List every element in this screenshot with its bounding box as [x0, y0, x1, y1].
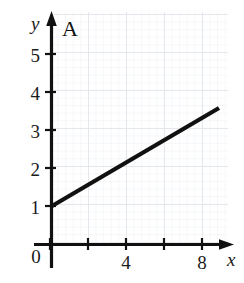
y-tick-label-1: 1	[20, 198, 40, 217]
y-tick-label-4: 4	[20, 84, 40, 103]
x-tick-label-8: 8	[190, 253, 214, 272]
y-tick-label-5: 5	[20, 46, 40, 65]
x-tick-label-4: 4	[114, 253, 138, 272]
x-axis-label: x	[227, 250, 235, 269]
chart-label: A	[62, 18, 78, 40]
y-tick-label-2: 2	[20, 160, 40, 179]
y-tick-label-3: 3	[20, 122, 40, 141]
figure-container: A y x 0 1 2 3 4 5 4 8	[0, 0, 244, 283]
data-line-series-a	[52, 108, 219, 206]
origin-tick-label: 0	[26, 247, 46, 266]
y-axis-arrowhead	[46, 11, 57, 26]
y-axis-label: y	[31, 14, 39, 33]
